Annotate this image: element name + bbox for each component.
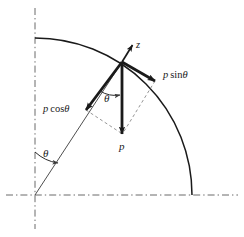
p-cos-theta-angle: θ: [64, 103, 69, 114]
z-axis-vector: [122, 45, 133, 62]
vector-decomposition-figure: z p psinθ pcosθ θ θ: [0, 0, 244, 237]
p-vector-label: p: [119, 141, 125, 152]
p-sin-theta-angle: θ: [183, 69, 188, 80]
p-cos-theta-function: cos: [50, 103, 64, 114]
p-sin-theta-label: psinθ: [163, 70, 188, 81]
p-sin-theta-variable: p: [163, 69, 168, 80]
construction-line-radial: [86, 110, 121, 133]
p-cos-theta-label: pcosθ: [43, 104, 69, 115]
radial-line: [35, 62, 122, 195]
sphere-arc: [35, 38, 192, 195]
p-sin-theta-vector: [122, 62, 155, 81]
z-axis-label: z: [136, 40, 140, 51]
construction-line-tangential: [123, 81, 155, 133]
theta-label-at-vector: θ: [104, 93, 109, 104]
figure-canvas: [0, 0, 244, 237]
p-cos-theta-variable: p: [43, 103, 48, 114]
p-sin-theta-function: sin: [170, 69, 182, 80]
theta-label-at-origin: θ: [43, 148, 48, 159]
